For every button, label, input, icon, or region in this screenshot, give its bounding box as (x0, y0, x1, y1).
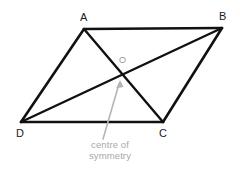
diagram-canvas: A B C D O centre of symmetry (0, 0, 240, 169)
vertex-label-c: C (159, 128, 167, 139)
centre-of-symmetry-arrow (103, 80, 124, 139)
centre-of-symmetry-caption: centre of symmetry (62, 139, 158, 161)
diagonal-AC (84, 29, 163, 122)
vertex-label-a: A (80, 12, 88, 23)
side-AB (84, 28, 222, 29)
centre-point-label-o: O (119, 56, 126, 65)
caption-line-1: centre of (62, 139, 158, 150)
vertex-label-d: D (16, 128, 24, 139)
vertex-label-b: B (219, 11, 227, 22)
caption-line-2: symmetry (62, 150, 158, 161)
